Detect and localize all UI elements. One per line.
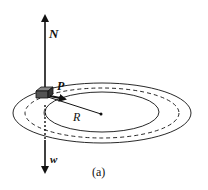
label-normal-force: N	[48, 26, 59, 41]
caption: (a)	[92, 165, 105, 179]
label-weight: w	[50, 153, 58, 165]
label-radius: R	[72, 110, 81, 124]
label-point: P	[57, 79, 65, 93]
center-dot	[100, 113, 103, 116]
free-body-diagram: N P R w (a)	[0, 0, 208, 190]
shadow-mark	[44, 108, 46, 118]
